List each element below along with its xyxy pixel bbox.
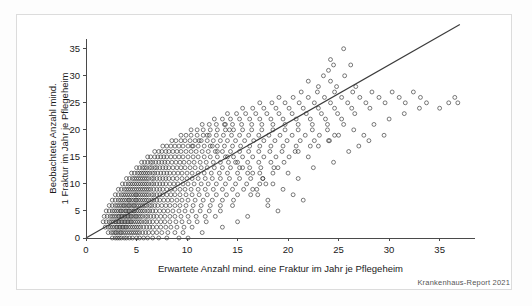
data-point <box>208 204 212 208</box>
data-point <box>183 166 187 170</box>
data-point <box>248 166 252 170</box>
data-point <box>291 95 295 99</box>
data-point <box>173 204 177 208</box>
data-point <box>251 187 255 191</box>
data-point <box>306 95 310 99</box>
data-point <box>178 160 182 164</box>
data-point <box>250 128 254 132</box>
data-point <box>317 133 321 137</box>
data-point <box>290 112 294 116</box>
data-point <box>184 150 188 154</box>
data-point <box>324 117 328 121</box>
data-point <box>190 225 194 229</box>
data-point <box>226 112 230 116</box>
data-point <box>227 160 231 164</box>
data-point <box>301 106 305 110</box>
data-point <box>201 198 205 202</box>
data-point <box>262 155 266 159</box>
data-point <box>188 166 192 170</box>
data-point <box>425 101 429 105</box>
data-point <box>246 160 250 164</box>
data-point <box>372 122 376 126</box>
data-point <box>184 204 188 208</box>
data-point <box>411 90 415 94</box>
data-point <box>196 144 200 148</box>
data-point <box>201 133 205 137</box>
data-point <box>315 90 319 94</box>
source-caption: Krankenhaus-Report 2021 <box>417 278 510 287</box>
data-point <box>246 171 250 175</box>
data-point <box>203 214 207 218</box>
data-point <box>403 101 407 105</box>
data-point <box>153 150 157 154</box>
data-point <box>218 139 222 143</box>
data-point <box>159 225 163 229</box>
data-point <box>223 128 227 132</box>
data-point <box>214 133 218 137</box>
data-point <box>168 204 172 208</box>
data-point <box>164 204 168 208</box>
data-point <box>199 204 203 208</box>
data-point <box>218 177 222 181</box>
data-point <box>232 128 236 132</box>
data-point <box>274 106 278 110</box>
scatter-points-group <box>101 47 460 240</box>
data-point <box>258 182 262 186</box>
data-point <box>223 182 227 186</box>
data-point <box>182 225 186 229</box>
data-point <box>310 128 314 132</box>
data-point <box>332 160 336 164</box>
data-point <box>151 231 155 235</box>
data-point <box>249 193 253 197</box>
data-point <box>268 150 272 154</box>
data-point <box>173 214 177 218</box>
y-axis-title-line2: 1 Fraktur im Jahr je Pflegeheim <box>59 72 70 204</box>
data-point <box>231 204 235 208</box>
data-point <box>166 209 170 213</box>
data-point <box>229 166 233 170</box>
y-tick-label: 25 <box>69 97 80 108</box>
data-point <box>236 193 240 197</box>
x-axis-title: Erwartete Anzahl mind. eine Fraktur im J… <box>158 263 403 274</box>
data-point <box>202 155 206 159</box>
data-point <box>241 155 245 159</box>
data-point <box>175 177 179 181</box>
data-point <box>262 139 266 143</box>
data-point <box>323 95 327 99</box>
data-point <box>291 193 295 197</box>
data-point <box>347 150 351 154</box>
data-point <box>246 214 250 218</box>
data-point <box>170 139 174 143</box>
data-point <box>340 95 344 99</box>
data-point <box>390 90 394 94</box>
data-point <box>189 133 193 137</box>
data-point <box>180 177 184 181</box>
data-point <box>283 101 287 105</box>
data-point <box>226 171 230 175</box>
data-point <box>248 117 252 121</box>
data-point <box>296 122 300 126</box>
data-point <box>183 139 187 143</box>
data-point <box>226 139 230 143</box>
data-point <box>180 220 184 224</box>
data-point <box>211 160 215 164</box>
data-point <box>231 122 235 126</box>
data-point <box>453 95 457 99</box>
data-point <box>255 187 259 191</box>
data-point <box>438 106 442 110</box>
data-point <box>196 187 200 191</box>
y-tick-label: 15 <box>69 151 80 162</box>
data-point <box>178 193 182 197</box>
data-point <box>230 133 234 137</box>
data-point <box>254 112 258 116</box>
data-point <box>186 144 190 148</box>
data-point <box>211 139 215 143</box>
data-point <box>207 209 211 213</box>
data-point <box>271 122 275 126</box>
data-point <box>316 85 320 89</box>
data-point <box>179 139 183 143</box>
data-point <box>184 193 188 197</box>
data-point <box>203 177 207 181</box>
data-point <box>211 187 215 191</box>
data-point <box>290 133 294 137</box>
